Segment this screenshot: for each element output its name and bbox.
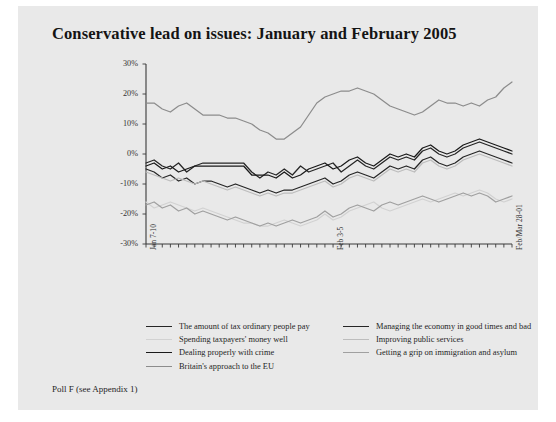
legend-label: Getting a grip on immigration and asylum bbox=[376, 348, 517, 357]
series-line-5 bbox=[146, 154, 512, 196]
y-axis-tick-label: -20% bbox=[96, 209, 138, 218]
legend-swatch-line-icon bbox=[146, 366, 172, 367]
line-chart-plot bbox=[128, 62, 516, 248]
legend-label: Dealing properly with crime bbox=[179, 348, 274, 357]
legend-swatch-line-icon bbox=[146, 352, 172, 353]
legend-item: The amount of tax ordinary people pay bbox=[146, 320, 310, 333]
legend-swatch-line-icon bbox=[146, 326, 172, 327]
legend-label: Britain's approach to the EU bbox=[179, 362, 274, 371]
legend-label: Improving public services bbox=[376, 335, 463, 344]
page-title: Conservative lead on issues: January and… bbox=[52, 24, 457, 44]
legend-item: Improving public services bbox=[343, 333, 463, 346]
legend-label: The amount of tax ordinary people pay bbox=[179, 322, 310, 331]
series-line-6 bbox=[146, 193, 512, 226]
legend-label: Managing the economy in good times and b… bbox=[376, 322, 531, 331]
legend-item: Spending taxpayers' money well bbox=[146, 333, 288, 346]
legend-swatch-line-icon bbox=[343, 326, 369, 327]
series-line-3 bbox=[146, 82, 512, 139]
y-axis-tick-label: 30% bbox=[96, 59, 138, 68]
x-axis-tick-label: Feb/Mar 28-01 bbox=[515, 204, 524, 250]
y-axis-tick-label: -30% bbox=[96, 239, 138, 248]
legend-swatch-line-icon bbox=[343, 339, 369, 340]
y-axis-tick-label: 20% bbox=[96, 89, 138, 98]
figure-page: Conservative lead on issues: January and… bbox=[0, 0, 556, 422]
chart-figure-panel: Conservative lead on issues: January and… bbox=[18, 6, 538, 410]
legend-swatch-line-icon bbox=[146, 339, 172, 340]
y-axis-tick-label: 0% bbox=[96, 149, 138, 158]
series-line-2 bbox=[146, 139, 512, 178]
y-axis-tick-label: 10% bbox=[96, 119, 138, 128]
x-axis-tick-label: Feb 3-5 bbox=[336, 227, 345, 250]
legend-swatch-line-icon bbox=[343, 352, 369, 353]
legend-item: Getting a grip on immigration and asylum bbox=[343, 346, 517, 359]
chart-legend: The amount of tax ordinary people paySpe… bbox=[146, 320, 546, 374]
legend-item: Dealing properly with crime bbox=[146, 346, 274, 359]
series-line-4 bbox=[146, 151, 512, 193]
legend-item: Managing the economy in good times and b… bbox=[343, 320, 531, 333]
x-axis-tick-label: Jan 7-10 bbox=[149, 224, 158, 250]
series-line-0 bbox=[146, 142, 512, 178]
legend-item: Britain's approach to the EU bbox=[146, 360, 274, 373]
y-axis-tick-label: -10% bbox=[96, 179, 138, 188]
footnote: Poll F (see Appendix 1) bbox=[52, 384, 138, 394]
chart-svg bbox=[128, 62, 516, 248]
legend-label: Spending taxpayers' money well bbox=[179, 335, 288, 344]
